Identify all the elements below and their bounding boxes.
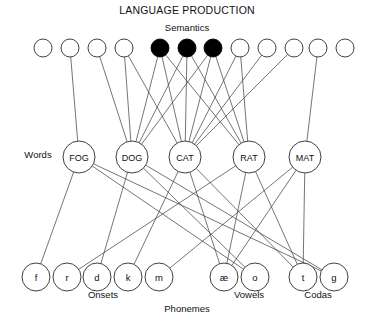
word-node-label: RAT bbox=[240, 153, 258, 163]
word-node-label: CAT bbox=[176, 153, 194, 163]
semantic-node-s6[interactable] bbox=[178, 39, 196, 57]
word-node-MAT[interactable]: MAT bbox=[289, 141, 321, 173]
phoneme-node-label: k bbox=[126, 272, 131, 283]
semantic-node-s8[interactable] bbox=[231, 39, 249, 57]
phoneme-nodes: frdkmæotg bbox=[22, 263, 348, 291]
edge-MAT-m bbox=[170, 167, 293, 268]
semantic-node-s3[interactable] bbox=[88, 39, 106, 57]
semantic-node-circle[interactable] bbox=[151, 39, 169, 57]
edge-s6-CAT bbox=[185, 57, 187, 141]
word-node-DOG[interactable]: DOG bbox=[116, 141, 148, 173]
edge-DOG-o bbox=[143, 168, 245, 267]
semantic-node-s11[interactable] bbox=[309, 39, 327, 57]
phoneme-group-label-vowels: Vowels bbox=[234, 289, 264, 300]
phoneme-node-d[interactable]: d bbox=[83, 263, 111, 291]
phoneme-node-label: m bbox=[155, 272, 163, 283]
phoneme-node-label: t bbox=[302, 272, 305, 283]
edge-DOG-g bbox=[146, 165, 322, 270]
edge-s3-DOG bbox=[100, 57, 127, 142]
edge-DOG-d bbox=[101, 172, 128, 263]
semantic-node-circle[interactable] bbox=[258, 39, 276, 57]
phoneme-group-label-onsets: Onsets bbox=[88, 289, 118, 300]
edge-MAT-ae bbox=[232, 170, 296, 265]
word-node-label: FOG bbox=[69, 153, 89, 163]
edge-RAT-ae bbox=[227, 173, 246, 264]
phoneme-node-label: æ bbox=[220, 272, 229, 283]
edge-s5-CAT bbox=[162, 57, 181, 142]
edge-s11-MAT bbox=[307, 57, 317, 141]
phoneme-node-g[interactable]: g bbox=[320, 263, 348, 291]
semantic-node-circle[interactable] bbox=[204, 39, 222, 57]
semantic-node-s2[interactable] bbox=[61, 39, 79, 57]
semantic-node-s1[interactable] bbox=[34, 39, 52, 57]
semantic-node-circle[interactable] bbox=[61, 39, 79, 57]
semantic-node-circle[interactable] bbox=[336, 39, 354, 57]
words-layer-label: Words bbox=[24, 149, 52, 160]
semantic-node-s12[interactable] bbox=[336, 39, 354, 57]
phoneme-node-m[interactable]: m bbox=[145, 263, 173, 291]
phoneme-node-label: r bbox=[65, 272, 68, 283]
phoneme-node-r[interactable]: r bbox=[53, 263, 81, 291]
phoneme-node-t[interactable]: t bbox=[289, 263, 317, 291]
semantics-layer-label: Semantics bbox=[165, 22, 210, 33]
edge-s5-DOG bbox=[136, 57, 158, 142]
language-production-diagram: LANGUAGE PRODUCTION Semantics FOGDOGCATR… bbox=[0, 0, 374, 327]
word-node-RAT[interactable]: RAT bbox=[233, 141, 265, 173]
word-node-label: DOG bbox=[122, 153, 143, 163]
phoneme-node-label: g bbox=[331, 272, 336, 283]
phonemes-layer-label: Phonemes bbox=[164, 303, 210, 314]
edge-s6-DOG bbox=[139, 56, 183, 143]
semantics-nodes bbox=[34, 39, 354, 57]
phoneme-node-k[interactable]: k bbox=[114, 263, 142, 291]
phoneme-node-f[interactable]: f bbox=[22, 263, 50, 291]
word-node-label: MAT bbox=[296, 153, 315, 163]
semantic-node-circle[interactable] bbox=[34, 39, 52, 57]
semantic-node-circle[interactable] bbox=[285, 39, 303, 57]
phoneme-group-label-codas: Codas bbox=[304, 289, 332, 300]
word-node-FOG[interactable]: FOG bbox=[63, 141, 95, 173]
words-to-phonemes-edges bbox=[41, 164, 322, 271]
edge-MAT-t bbox=[303, 173, 305, 263]
semantic-node-s7[interactable] bbox=[204, 39, 222, 57]
semantic-node-s10[interactable] bbox=[285, 39, 303, 57]
phoneme-node-label: d bbox=[94, 272, 99, 283]
semantic-node-s4[interactable] bbox=[115, 39, 133, 57]
semantic-node-s9[interactable] bbox=[258, 39, 276, 57]
semantic-node-circle[interactable] bbox=[115, 39, 133, 57]
edge-s7-RAT bbox=[216, 57, 244, 142]
edge-s8-RAT bbox=[241, 57, 248, 141]
semantic-node-s5[interactable] bbox=[151, 39, 169, 57]
edge-s7-CAT bbox=[189, 57, 211, 142]
edge-CAT-t bbox=[196, 168, 293, 267]
edge-s2-FOG bbox=[71, 57, 78, 141]
semantic-node-circle[interactable] bbox=[231, 39, 249, 57]
phoneme-node-label: f bbox=[35, 272, 38, 283]
word-node-CAT[interactable]: CAT bbox=[169, 141, 201, 173]
semantic-node-circle[interactable] bbox=[88, 39, 106, 57]
semantic-node-circle[interactable] bbox=[178, 39, 196, 57]
phoneme-node-ae[interactable]: æ bbox=[210, 263, 238, 291]
phoneme-node-label: o bbox=[252, 272, 257, 283]
word-nodes: FOGDOGCATRATMAT bbox=[63, 141, 321, 173]
semantics-to-words-edges bbox=[71, 54, 317, 145]
edge-s4-CAT bbox=[128, 56, 177, 143]
edge-s9-CAT bbox=[195, 55, 262, 144]
edge-FOG-o bbox=[92, 166, 243, 269]
page-title: LANGUAGE PRODUCTION bbox=[119, 4, 255, 16]
edge-FOG-f bbox=[41, 172, 74, 264]
semantic-node-circle[interactable] bbox=[309, 39, 327, 57]
edge-s7-DOG bbox=[142, 55, 208, 144]
phoneme-node-o[interactable]: o bbox=[241, 263, 269, 291]
network-graph: LANGUAGE PRODUCTION Semantics FOGDOGCATR… bbox=[0, 0, 374, 327]
edge-s4-DOG bbox=[125, 57, 131, 141]
